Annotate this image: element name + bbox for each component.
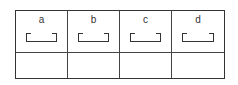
cell-c-top: c	[120, 11, 172, 53]
tray-bracket-icon	[26, 33, 57, 42]
cell-a-top: a	[16, 11, 68, 53]
tray-bracket-icon	[130, 33, 161, 42]
cell-d-bottom	[172, 53, 224, 78]
diagram-table: a b c d	[15, 10, 225, 79]
cell-b-bottom	[68, 53, 120, 78]
cell-label: d	[172, 14, 224, 26]
cell-d-top: d	[172, 11, 224, 53]
cell-label: c	[120, 14, 171, 26]
cell-b-top: b	[68, 11, 120, 53]
cell-c-bottom	[120, 53, 172, 78]
cell-label: b	[68, 14, 119, 26]
tray-bracket-icon	[78, 33, 109, 42]
cell-label: a	[16, 14, 67, 26]
tray-bracket-icon	[182, 33, 214, 42]
cell-a-bottom	[16, 53, 68, 78]
